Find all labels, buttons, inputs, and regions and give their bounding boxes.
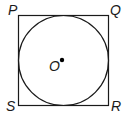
diagram-canvas: P Q R S O [0,0,133,120]
label-q: Q [110,2,121,18]
label-o: O [49,58,60,74]
center-point-o [60,58,64,62]
label-s: S [6,98,16,114]
label-r: R [111,98,121,114]
label-p: P [8,2,18,18]
